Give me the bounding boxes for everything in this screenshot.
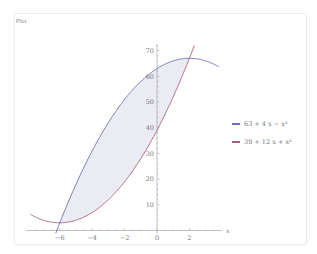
svg-text:0: 0 bbox=[155, 234, 159, 242]
svg-text:2: 2 bbox=[187, 234, 191, 242]
svg-text:20: 20 bbox=[146, 175, 154, 183]
svg-text:−6: −6 bbox=[55, 234, 65, 242]
legend-item-1: 63 + 4 x − x² bbox=[232, 120, 288, 128]
svg-text:10: 10 bbox=[146, 201, 154, 209]
svg-text:40: 40 bbox=[146, 124, 154, 132]
svg-text:−2: −2 bbox=[120, 234, 130, 242]
legend-swatch-1 bbox=[232, 123, 240, 125]
svg-text:−4: −4 bbox=[87, 234, 97, 242]
legend-label-1: 63 + 4 x − x² bbox=[244, 120, 288, 128]
svg-text:30: 30 bbox=[146, 150, 154, 158]
legend-item-2: 39 + 12 x + x² bbox=[232, 138, 292, 146]
svg-text:50: 50 bbox=[146, 98, 154, 106]
svg-text:70: 70 bbox=[146, 47, 154, 55]
legend-label-2: 39 + 12 x + x² bbox=[244, 138, 292, 146]
legend-swatch-2 bbox=[232, 141, 240, 143]
svg-text:x: x bbox=[226, 227, 230, 235]
shaded-region bbox=[60, 58, 190, 223]
